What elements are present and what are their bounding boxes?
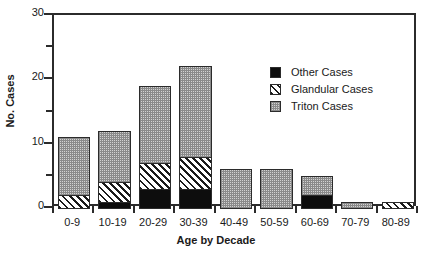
x-axis-title: Age by Decade [0, 234, 432, 246]
y-tick-label: 10 [6, 136, 44, 147]
x-tick-mark [335, 206, 337, 213]
x-tick-label: 20-29 [133, 216, 173, 228]
stipple-gray-swatch [270, 101, 281, 112]
x-tick-label: 30-39 [173, 216, 213, 228]
x-tick-label: 70-79 [335, 216, 375, 228]
x-tick-mark [416, 206, 418, 213]
x-tick-label: 40-49 [214, 216, 254, 228]
bar-segment [341, 202, 373, 209]
plot-area: Other Cases Glandular Cases Triton Cases [52, 13, 416, 206]
legend-item-triton: Triton Cases [270, 99, 373, 113]
x-tick-mark [173, 206, 175, 213]
bar-segment [139, 86, 171, 164]
bar-segment [301, 176, 333, 196]
bar-segment [301, 195, 333, 209]
bar-segment [98, 182, 130, 202]
x-tick-label: 60-69 [295, 216, 335, 228]
x-tick-label: 10-19 [92, 216, 132, 228]
x-tick-mark [214, 206, 216, 213]
bar-segment [98, 131, 130, 183]
legend: Other Cases Glandular Cases Triton Cases [270, 65, 373, 116]
legend-item-other: Other Cases [270, 65, 373, 79]
legend-label: Glandular Cases [291, 84, 373, 95]
x-tick-mark [52, 206, 54, 213]
bar-segment [98, 202, 130, 209]
bar-chart: No. Cases 0102030 Other Cases Glandular … [0, 0, 432, 253]
y-tick-label: 0 [6, 200, 44, 211]
legend-item-glandular: Glandular Cases [270, 82, 373, 96]
x-tick-label: 0-9 [52, 216, 92, 228]
bar-segment [139, 189, 171, 209]
y-tick-label: 20 [6, 71, 44, 82]
bar-segment [260, 169, 292, 209]
x-tick-label: 80-89 [376, 216, 416, 228]
x-tick-mark [376, 206, 378, 213]
bar-segment [179, 189, 211, 209]
diagonal-hatch-swatch [270, 84, 281, 95]
bar-segment [58, 195, 90, 209]
bar-segment [179, 66, 211, 157]
bar-segment [58, 137, 90, 196]
x-tick-mark [254, 206, 256, 213]
bar-segment [139, 163, 171, 190]
y-tick-label: 30 [6, 7, 44, 18]
solid-black-swatch [270, 67, 281, 78]
legend-label: Other Cases [291, 67, 353, 78]
bar-segment [382, 202, 414, 209]
x-tick-label: 50-59 [254, 216, 294, 228]
x-tick-mark [92, 206, 94, 213]
x-tick-mark [295, 206, 297, 213]
y-axis-labels: 0102030 [0, 0, 44, 253]
x-tick-mark [133, 206, 135, 213]
bar-segment [220, 169, 252, 209]
bar-segment [179, 157, 211, 190]
legend-label: Triton Cases [291, 101, 353, 112]
